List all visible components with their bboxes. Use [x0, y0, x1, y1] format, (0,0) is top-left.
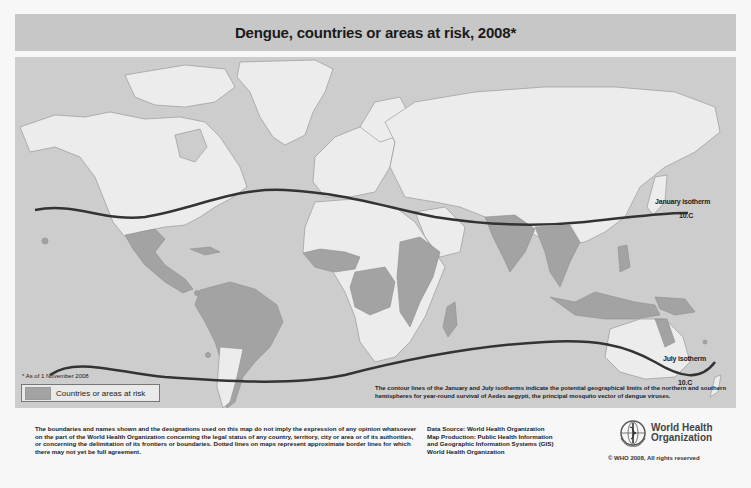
data-source-line: Data Source: World Health Organization [427, 425, 562, 433]
australia [605, 319, 690, 379]
who-emblem-icon [618, 418, 648, 448]
world-map: January isotherm 10.C July isotherm 10.C… [15, 57, 736, 408]
as-of-footnote: * As of 1 November 2008 [22, 373, 89, 379]
arctic-islands [125, 65, 235, 107]
greenland [237, 60, 333, 145]
caribbean [190, 247, 220, 255]
map-legend: Countries or areas at risk [21, 384, 160, 402]
data-source-line: Map Production: Public Health Informatio… [427, 433, 562, 441]
who-logo: World Health Organization [618, 418, 712, 448]
copyright: © WHO 2008, All rights reserved [608, 455, 700, 461]
january-isotherm-value: 10.C [679, 212, 693, 219]
data-source: Data Source: World Health Organization M… [427, 425, 562, 455]
data-source-line: and Geographic Information Systems (GIS) [427, 440, 562, 448]
data-source-line: World Health Organization [427, 448, 562, 456]
title-bar: Dengue, countries or areas at risk, 2008… [15, 14, 736, 51]
january-isotherm-label: January isotherm [655, 198, 710, 205]
disclaimer-text: The boundaries and names shown and the d… [35, 425, 420, 455]
who-name-line: Organization [651, 433, 712, 443]
japan [647, 175, 667, 215]
legend-label: Countries or areas at risk [56, 389, 145, 398]
at-risk-swatch [25, 387, 51, 400]
pacific-island [703, 340, 707, 344]
isotherm-note: The contour lines of the January and Jul… [375, 384, 731, 400]
july-isotherm-label: July isotherm [663, 355, 706, 362]
pacific-island [42, 238, 48, 244]
madagascar [443, 302, 457, 337]
world-map-svg [15, 57, 736, 408]
who-name: World Health Organization [651, 423, 712, 443]
land-masses [20, 60, 721, 408]
mexico-central-america [125, 229, 193, 293]
philippines [618, 245, 630, 272]
new-guinea [655, 297, 695, 315]
south-america [195, 282, 283, 408]
pacific-island [206, 353, 211, 358]
indonesia [550, 292, 660, 319]
southeast-asia [535, 225, 580, 287]
central-africa-risk [350, 267, 395, 315]
pacific-island [195, 291, 200, 296]
map-title: Dengue, countries or areas at risk, 2008… [235, 24, 516, 41]
